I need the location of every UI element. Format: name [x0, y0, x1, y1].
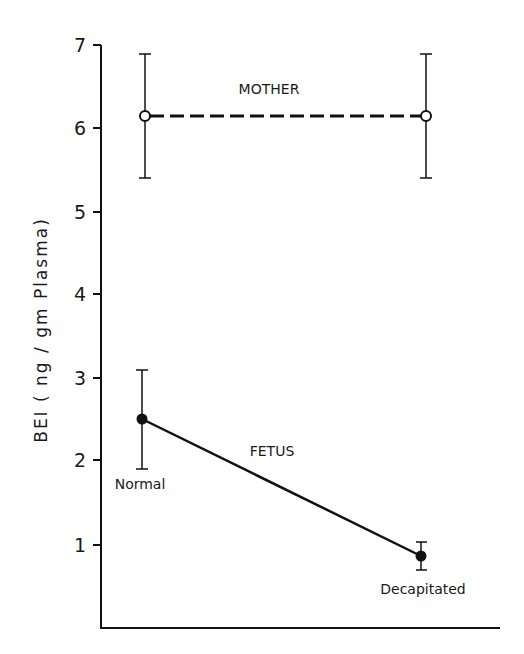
y-ticks [93, 45, 101, 545]
series-fetus: FETUS Normal Decapitated [115, 370, 466, 597]
chart: 1 2 3 4 5 6 7 BEI ( ng / gm Plasma) MOTH… [0, 0, 524, 654]
mother-normal-point [140, 111, 150, 121]
tick-label-3: 3 [74, 367, 86, 389]
y-axis-label: BEI ( ng / gm Plasma) [31, 217, 51, 443]
tick-label-4: 4 [74, 283, 86, 305]
y-tick-labels: 1 2 3 4 5 6 7 [74, 34, 86, 556]
tick-label-7: 7 [74, 34, 86, 56]
series-mother: MOTHER [139, 54, 432, 178]
decapitated-label: Decapitated [380, 581, 466, 597]
tick-label-5: 5 [74, 201, 86, 223]
mother-label: MOTHER [239, 81, 300, 97]
mother-decapitated-point [421, 111, 431, 121]
fetus-decapitated-point [416, 551, 427, 562]
fetus-label: FETUS [250, 443, 295, 459]
tick-label-6: 6 [74, 117, 86, 139]
tick-label-1: 1 [74, 534, 86, 556]
normal-label: Normal [115, 476, 166, 492]
tick-label-2: 2 [74, 449, 86, 471]
fetus-normal-point [137, 414, 148, 425]
